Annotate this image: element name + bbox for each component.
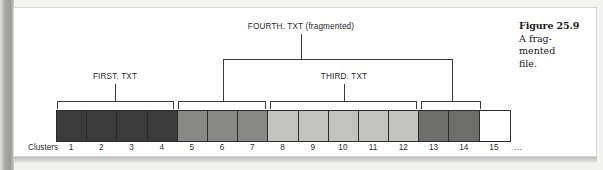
cluster-number-6: 6 bbox=[207, 143, 237, 152]
cluster-number-12: 12 bbox=[388, 143, 418, 152]
cluster-number-2: 2 bbox=[86, 143, 116, 152]
cluster-number-14: 14 bbox=[449, 143, 479, 152]
cluster-block-12 bbox=[389, 111, 419, 141]
third-txt-bracket-left-tick bbox=[270, 101, 271, 109]
third-txt-bracket-right-tick bbox=[416, 101, 417, 109]
cluster-number-8: 8 bbox=[267, 143, 297, 152]
third-txt-stem bbox=[344, 84, 345, 101]
cluster-block-4 bbox=[148, 111, 178, 141]
cluster-block-7 bbox=[238, 111, 268, 141]
cluster-number-11: 11 bbox=[358, 143, 388, 152]
fourth-txt-left-leg bbox=[223, 59, 224, 101]
cluster-block-9 bbox=[299, 111, 329, 141]
cluster-block-15 bbox=[480, 111, 510, 141]
cluster-block-6 bbox=[208, 111, 238, 141]
cluster-block-11 bbox=[359, 111, 389, 141]
label-first-txt: FIRST. TXT bbox=[93, 72, 137, 81]
cluster-number-13: 13 bbox=[418, 143, 448, 152]
fourth-txt-fragment-b-bracket-bar bbox=[421, 101, 481, 102]
cluster-number-4: 4 bbox=[147, 143, 177, 152]
cluster-number-1: 1 bbox=[56, 143, 86, 152]
fourth-txt-fragment-a-right-tick bbox=[265, 101, 266, 109]
cluster-block-10 bbox=[329, 111, 359, 141]
first-txt-bracket-left-tick bbox=[57, 101, 58, 109]
cluster-number-3: 3 bbox=[116, 143, 146, 152]
cluster-block-5 bbox=[178, 111, 208, 141]
figure-card: Figure 25.9 A frag- mented file. FOURTH.… bbox=[13, 7, 597, 157]
fourth-txt-right-leg bbox=[452, 59, 453, 101]
third-txt-bracket-bar bbox=[270, 101, 417, 102]
cluster-number-9: 9 bbox=[298, 143, 328, 152]
cluster-block-2 bbox=[87, 111, 117, 141]
fourth-txt-top-bar bbox=[223, 59, 452, 60]
cluster-number-15: 15 bbox=[479, 143, 509, 152]
clusters-axis-label: Clusters bbox=[28, 143, 58, 152]
cluster-block-14 bbox=[449, 111, 479, 141]
book-gutter-shadow bbox=[0, 0, 14, 170]
cluster-ellipsis: … bbox=[514, 143, 522, 152]
fragmented-file-diagram: FOURTH. TXT (fragmented) FIRST. TXT THIR… bbox=[14, 8, 598, 158]
cluster-number-5: 5 bbox=[177, 143, 207, 152]
cluster-block-3 bbox=[117, 111, 147, 141]
fourth-txt-fragment-a-left-tick bbox=[178, 101, 179, 109]
cluster-number-10: 10 bbox=[328, 143, 358, 152]
cluster-block-1 bbox=[57, 111, 87, 141]
first-txt-stem bbox=[115, 84, 116, 101]
fourth-txt-fragment-b-left-tick bbox=[421, 101, 422, 109]
fourth-txt-fragment-a-bracket-bar bbox=[178, 101, 266, 102]
label-third-txt: THIRD. TXT bbox=[321, 72, 367, 81]
cluster-number-7: 7 bbox=[237, 143, 267, 152]
fourth-txt-fragment-b-right-tick bbox=[480, 101, 481, 109]
label-fourth-txt: FOURTH. TXT (fragmented) bbox=[248, 22, 354, 31]
cluster-strip bbox=[56, 110, 511, 142]
first-txt-bracket-right-tick bbox=[173, 101, 174, 109]
fourth-txt-stem bbox=[301, 34, 302, 59]
cluster-block-13 bbox=[419, 111, 449, 141]
cluster-block-8 bbox=[268, 111, 298, 141]
first-txt-bracket-bar bbox=[57, 101, 174, 102]
